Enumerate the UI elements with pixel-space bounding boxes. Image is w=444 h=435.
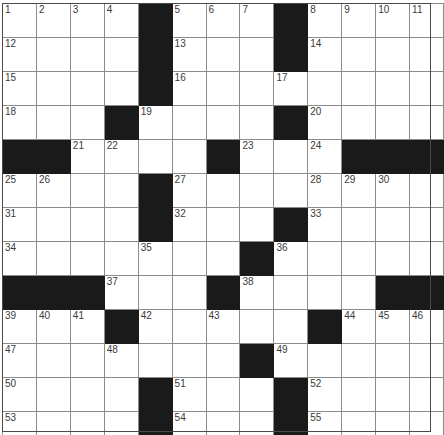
letter-cell[interactable] — [342, 38, 376, 72]
letter-cell[interactable] — [70, 242, 104, 276]
letter-cell[interactable] — [308, 242, 342, 276]
letter-cell[interactable] — [138, 344, 172, 378]
letter-cell[interactable] — [240, 412, 274, 435]
letter-cell[interactable] — [36, 106, 70, 140]
letter-cell[interactable] — [410, 412, 444, 435]
letter-cell[interactable]: 19 — [138, 106, 172, 140]
letter-cell[interactable] — [240, 378, 274, 412]
letter-cell[interactable] — [410, 38, 444, 72]
letter-cell[interactable] — [70, 174, 104, 208]
letter-cell[interactable]: 39 — [3, 310, 37, 344]
letter-cell[interactable]: 26 — [36, 174, 70, 208]
letter-cell[interactable] — [206, 106, 240, 140]
letter-cell[interactable] — [376, 38, 410, 72]
letter-cell[interactable] — [410, 72, 444, 106]
letter-cell[interactable] — [410, 242, 444, 276]
letter-cell[interactable]: 41 — [70, 310, 104, 344]
letter-cell[interactable]: 47 — [3, 344, 37, 378]
letter-cell[interactable] — [376, 344, 410, 378]
letter-cell[interactable]: 6 — [206, 4, 240, 38]
letter-cell[interactable] — [172, 242, 206, 276]
letter-cell[interactable] — [70, 412, 104, 435]
letter-cell[interactable] — [342, 412, 376, 435]
letter-cell[interactable]: 37 — [104, 276, 138, 310]
letter-cell[interactable] — [410, 344, 444, 378]
crossword-grid[interactable]: 1234567891011121314151617181920212223242… — [2, 3, 444, 435]
letter-cell[interactable]: 11 — [410, 4, 444, 38]
letter-cell[interactable]: 13 — [172, 38, 206, 72]
letter-cell[interactable] — [410, 208, 444, 242]
letter-cell[interactable]: 50 — [3, 378, 37, 412]
letter-cell[interactable]: 14 — [308, 38, 342, 72]
letter-cell[interactable] — [240, 38, 274, 72]
letter-cell[interactable] — [36, 378, 70, 412]
letter-cell[interactable] — [274, 140, 308, 174]
letter-cell[interactable] — [240, 310, 274, 344]
letter-cell[interactable] — [342, 276, 376, 310]
letter-cell[interactable] — [206, 344, 240, 378]
letter-cell[interactable]: 30 — [376, 174, 410, 208]
letter-cell[interactable] — [104, 72, 138, 106]
letter-cell[interactable] — [240, 208, 274, 242]
letter-cell[interactable] — [36, 344, 70, 378]
letter-cell[interactable] — [376, 208, 410, 242]
letter-cell[interactable]: 16 — [172, 72, 206, 106]
letter-cell[interactable] — [36, 208, 70, 242]
letter-cell[interactable]: 22 — [104, 140, 138, 174]
letter-cell[interactable] — [206, 412, 240, 435]
letter-cell[interactable]: 45 — [376, 310, 410, 344]
letter-cell[interactable]: 27 — [172, 174, 206, 208]
letter-cell[interactable] — [206, 38, 240, 72]
letter-cell[interactable] — [104, 242, 138, 276]
letter-cell[interactable] — [376, 242, 410, 276]
letter-cell[interactable]: 20 — [308, 106, 342, 140]
letter-cell[interactable] — [104, 38, 138, 72]
letter-cell[interactable] — [376, 412, 410, 435]
letter-cell[interactable]: 31 — [3, 208, 37, 242]
letter-cell[interactable] — [274, 276, 308, 310]
letter-cell[interactable] — [342, 72, 376, 106]
letter-cell[interactable]: 46 — [410, 310, 444, 344]
letter-cell[interactable] — [308, 276, 342, 310]
letter-cell[interactable] — [342, 208, 376, 242]
letter-cell[interactable] — [172, 140, 206, 174]
letter-cell[interactable]: 10 — [376, 4, 410, 38]
letter-cell[interactable]: 44 — [342, 310, 376, 344]
letter-cell[interactable] — [308, 72, 342, 106]
letter-cell[interactable]: 36 — [274, 242, 308, 276]
letter-cell[interactable] — [376, 378, 410, 412]
letter-cell[interactable] — [138, 140, 172, 174]
letter-cell[interactable] — [274, 174, 308, 208]
letter-cell[interactable]: 3 — [70, 4, 104, 38]
letter-cell[interactable]: 18 — [3, 106, 37, 140]
letter-cell[interactable]: 25 — [3, 174, 37, 208]
letter-cell[interactable]: 32 — [172, 208, 206, 242]
letter-cell[interactable] — [206, 378, 240, 412]
letter-cell[interactable]: 28 — [308, 174, 342, 208]
letter-cell[interactable]: 54 — [172, 412, 206, 435]
letter-cell[interactable] — [206, 242, 240, 276]
letter-cell[interactable]: 17 — [274, 72, 308, 106]
letter-cell[interactable] — [240, 174, 274, 208]
letter-cell[interactable] — [206, 208, 240, 242]
letter-cell[interactable]: 35 — [138, 242, 172, 276]
letter-cell[interactable]: 34 — [3, 242, 37, 276]
letter-cell[interactable]: 48 — [104, 344, 138, 378]
letter-cell[interactable]: 7 — [240, 4, 274, 38]
letter-cell[interactable] — [36, 412, 70, 435]
letter-cell[interactable]: 1 — [3, 4, 37, 38]
letter-cell[interactable]: 38 — [240, 276, 274, 310]
letter-cell[interactable] — [274, 310, 308, 344]
letter-cell[interactable] — [70, 38, 104, 72]
letter-cell[interactable]: 55 — [308, 412, 342, 435]
letter-cell[interactable]: 42 — [138, 310, 172, 344]
letter-cell[interactable] — [70, 378, 104, 412]
letter-cell[interactable] — [342, 106, 376, 140]
letter-cell[interactable] — [70, 72, 104, 106]
letter-cell[interactable]: 21 — [70, 140, 104, 174]
letter-cell[interactable] — [206, 174, 240, 208]
letter-cell[interactable] — [104, 174, 138, 208]
letter-cell[interactable]: 23 — [240, 140, 274, 174]
letter-cell[interactable] — [376, 72, 410, 106]
letter-cell[interactable]: 12 — [3, 38, 37, 72]
